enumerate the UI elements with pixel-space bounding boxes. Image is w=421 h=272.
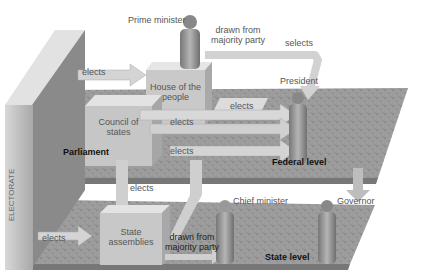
house-elects-president-label: elects — [230, 101, 254, 111]
prime-minister-label: Prime minister — [128, 15, 186, 25]
pm-drawn-from-label: drawn from majority party — [208, 25, 268, 45]
governor-label: Governor — [337, 196, 375, 206]
parliament-label: Parliament — [63, 147, 109, 157]
electorate-elects-house-label: elects — [82, 67, 106, 77]
state-elects-council-label: elects — [130, 183, 154, 193]
lower-elects-president-label: elects — [170, 146, 194, 156]
electorate-label: ELECTORATE — [7, 169, 17, 222]
selects-label: selects — [285, 38, 313, 48]
federal-level-label: Federal level — [272, 157, 327, 167]
state-assemblies-label: State assemblies — [100, 227, 162, 247]
council-of-states-label: Council of states — [85, 117, 152, 137]
president-label: President — [280, 76, 318, 86]
state-level-label: State level — [265, 252, 310, 262]
electorate-elects-state-label: elects — [42, 233, 66, 243]
council-elects-president-label: elects — [170, 117, 194, 127]
house-of-people-label: House of the people — [146, 82, 205, 102]
cm-drawn-from-label: drawn from majority party — [164, 232, 220, 252]
chief-minister-label: Chief minister — [233, 196, 288, 206]
